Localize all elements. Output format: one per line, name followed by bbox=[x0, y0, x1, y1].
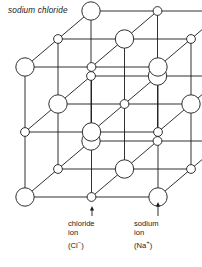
ion-sodium bbox=[120, 100, 129, 109]
ion-sodium bbox=[153, 137, 162, 146]
ion-sodium bbox=[153, 7, 162, 16]
ion-chloride bbox=[16, 188, 34, 206]
callout-chloride-formula-prefix: (Cl bbox=[68, 240, 78, 249]
ion-sodium bbox=[87, 63, 96, 72]
ion-chloride bbox=[49, 95, 67, 113]
callout-sodium-formula-prefix: (Na bbox=[134, 240, 146, 249]
ion-sodium bbox=[87, 72, 96, 81]
callout-sodium-formula-suffix: ) bbox=[150, 240, 153, 249]
callout-chloride-line1: chloride bbox=[68, 219, 95, 228]
ion-sodium bbox=[54, 35, 63, 44]
callout-label-chloride: chloride ion (Cl−) bbox=[68, 219, 95, 250]
callout-sodium-line2: ion bbox=[134, 228, 158, 237]
callout-label-sodium: sodium ion (Na+) bbox=[134, 219, 158, 250]
figure-title: sodium chloride bbox=[8, 6, 68, 15]
sodium-chloride-lattice-figure: sodium chloride chloride ion (Cl−) sodiu… bbox=[0, 0, 202, 267]
ion-chloride bbox=[82, 123, 100, 141]
ion-sodium bbox=[154, 128, 163, 137]
ion-chloride bbox=[182, 95, 200, 113]
ion-chloride bbox=[115, 160, 133, 178]
callout-arrows-group bbox=[90, 202, 160, 216]
callout-chloride-formula: (Cl−) bbox=[68, 238, 95, 250]
callout-chloride-formula-suffix: ) bbox=[81, 240, 84, 249]
ion-chloride bbox=[16, 58, 34, 76]
ion-sodium bbox=[54, 165, 63, 174]
ion-chloride bbox=[115, 30, 133, 48]
callout-arrow-head-chloride bbox=[90, 206, 94, 210]
ion-chloride bbox=[149, 58, 167, 76]
ion-sodium bbox=[87, 193, 96, 202]
ion-sodium bbox=[187, 165, 196, 174]
callout-sodium-formula: (Na+) bbox=[134, 238, 158, 250]
ion-chloride bbox=[82, 2, 100, 20]
ion-sodium bbox=[21, 128, 30, 137]
lattice-diagram bbox=[0, 0, 202, 267]
callout-sodium-line1: sodium bbox=[134, 219, 158, 228]
ion-sodium bbox=[187, 35, 196, 44]
callout-chloride-line2: ion bbox=[68, 228, 95, 237]
